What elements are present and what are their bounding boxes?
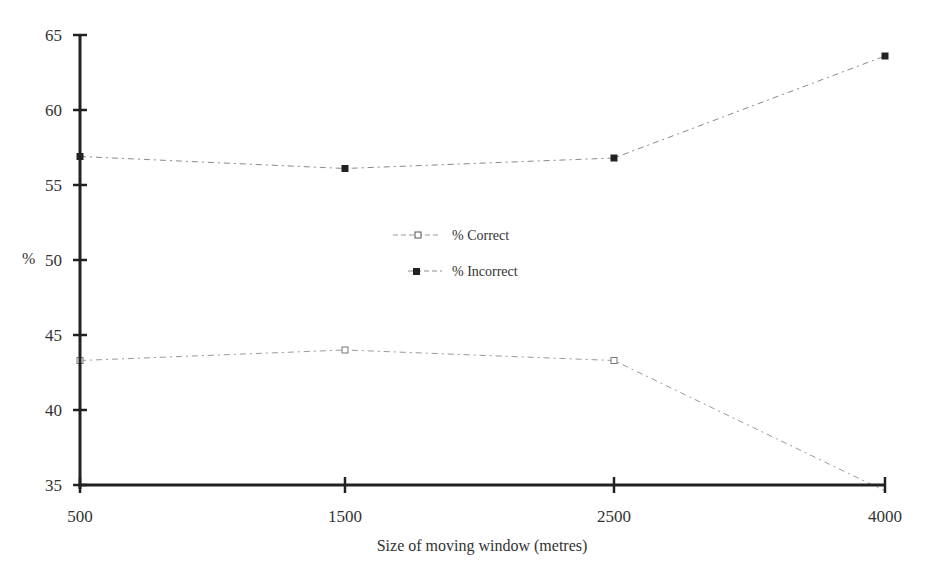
legend: % Correct % Incorrect [393, 228, 518, 279]
open-square-marker-icon [342, 347, 348, 353]
legend-item-correct: % Correct [393, 228, 509, 243]
y-axis: 35404550556065 % [22, 26, 87, 495]
series-correct [77, 347, 885, 491]
y-tick-label: 50 [45, 251, 62, 270]
open-square-marker-icon [415, 232, 421, 238]
y-tick-label: 40 [45, 401, 62, 420]
filled-square-marker-icon [413, 268, 420, 275]
legend-label-correct: % Correct [452, 228, 509, 243]
legend-label-incorrect: % Incorrect [452, 264, 518, 279]
x-axis-title: Size of moving window (metres) [377, 537, 588, 555]
y-axis-title: % [22, 250, 35, 267]
series-incorrect [77, 53, 889, 173]
filled-square-marker-icon [611, 155, 618, 162]
x-tick-label: 2500 [597, 507, 631, 526]
x-tick-label: 4000 [868, 507, 902, 526]
y-tick-label: 65 [45, 26, 62, 45]
legend-item-incorrect: % Incorrect [408, 264, 518, 279]
open-square-marker-icon [611, 358, 617, 364]
y-tick-label: 55 [45, 176, 62, 195]
filled-square-marker-icon [342, 165, 349, 172]
y-tick-label: 45 [45, 326, 62, 345]
x-axis: 500150025004000 Size of moving window (m… [67, 477, 902, 555]
filled-square-marker-icon [882, 53, 889, 60]
x-tick-label: 500 [67, 507, 93, 526]
line-chart: 35404550556065 % 500150025004000 Size of… [0, 0, 928, 581]
y-tick-label: 35 [45, 476, 62, 495]
x-tick-label: 1500 [328, 507, 362, 526]
y-tick-label: 60 [45, 101, 62, 120]
